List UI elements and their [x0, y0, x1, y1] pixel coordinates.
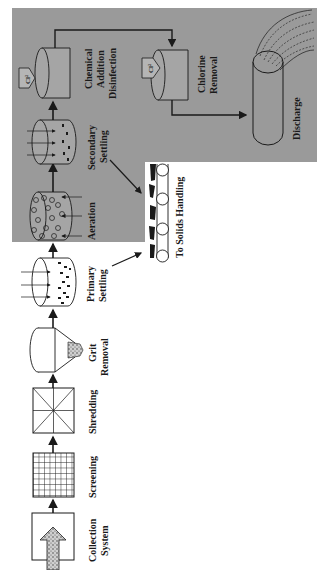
label-discharge: Discharge — [291, 97, 302, 140]
label-grit-line2: Removal — [99, 338, 110, 376]
label-primary-line1: Primary — [85, 266, 96, 302]
label-disinfection-line1: Chemical — [83, 48, 94, 89]
stage-chlorine-removal: Cl² Chlorine Removal — [142, 50, 219, 100]
label-chlorine-removal-line2: Removal — [208, 56, 219, 94]
stage-shredding: Shredding — [33, 388, 98, 434]
label-secondary-line2: Settling — [98, 130, 109, 163]
label-collection-line1: Collection — [87, 518, 98, 562]
label-shredding: Shredding — [87, 390, 98, 434]
stage-grit-removal: Grit Removal — [30, 328, 110, 376]
label-collection-line2: System — [99, 525, 110, 556]
chlorine-tag: Cl² — [147, 64, 155, 73]
shredder-icon — [33, 388, 74, 433]
label-secondary-line1: Secondary — [86, 125, 97, 170]
screen-grid-icon — [33, 453, 74, 497]
primary-sludge-arrow — [112, 253, 141, 266]
stage-primary-settling: Primary Settling — [21, 258, 108, 306]
stage-secondary-settling: Secondary Settling — [27, 120, 109, 170]
label-aeration: Aeration — [86, 202, 97, 240]
label-chlorine-removal-line1: Chlorine — [196, 55, 207, 93]
stage-screening: Screening — [33, 453, 98, 498]
label-disinfection-line2: Addition — [95, 50, 106, 88]
label-solids-handling: To Solids Handling — [174, 177, 185, 258]
label-screening: Screening — [87, 456, 98, 498]
grit-pile-icon — [68, 342, 83, 358]
label-disinfection-line3: Disinfection — [107, 47, 118, 99]
chlorine-tag: Cl² — [24, 75, 32, 84]
label-primary-line2: Settling — [97, 269, 108, 302]
label-grit-line1: Grit — [87, 343, 98, 362]
discharge-pipe-icon — [253, 62, 283, 145]
wastewater-flow-diagram: Collection System Screening Shredding Gr… — [0, 0, 319, 570]
sludge-solids-icon — [149, 164, 156, 258]
solids-handling-conveyor: To Solids Handling — [149, 164, 185, 262]
stage-collection-system: Collection System — [32, 513, 110, 570]
